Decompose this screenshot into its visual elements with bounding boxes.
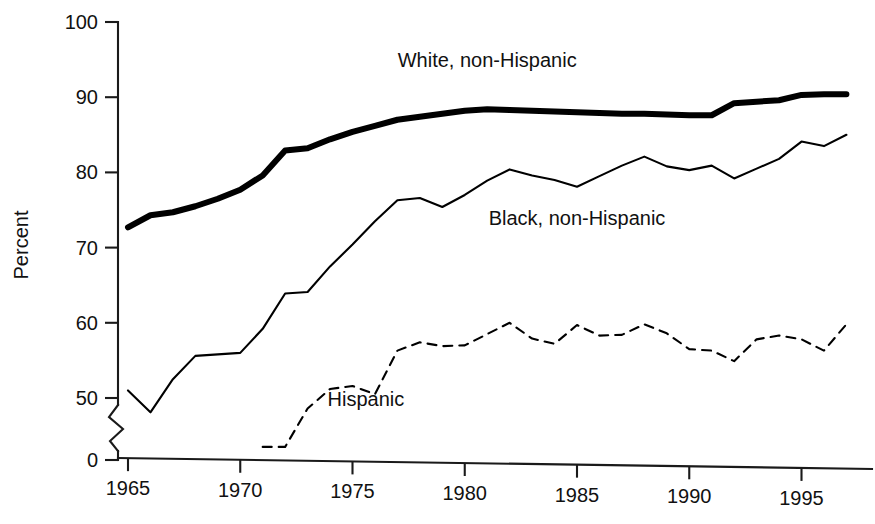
- line-chart-svg: 05060708090100 1965197019751980198519901…: [0, 0, 875, 524]
- x-tick-label-1965: 1965: [106, 477, 151, 499]
- series-line-1: [128, 135, 846, 412]
- y-tick-label-60: 60: [76, 312, 98, 334]
- series-label-1: Black, non-Hispanic: [489, 207, 666, 229]
- series-label-0: White, non-Hispanic: [398, 49, 577, 71]
- x-tick-label-1990: 1990: [667, 485, 712, 507]
- series-lines: [128, 94, 846, 447]
- chart-figure: 05060708090100 1965197019751980198519901…: [0, 0, 875, 524]
- y-axis-break-marker: [109, 405, 123, 451]
- x-tick-label-1995: 1995: [779, 487, 824, 509]
- y-tick-label-50: 50: [76, 387, 98, 409]
- x-axis-line: [118, 458, 872, 469]
- x-tick-label-1975: 1975: [330, 480, 375, 502]
- x-tick-marks: [128, 458, 802, 481]
- series-label-2: Hispanic: [328, 388, 405, 410]
- y-tick-label-90: 90: [76, 86, 98, 108]
- series-line-2: [263, 323, 847, 447]
- y-tick-label-100: 100: [65, 11, 98, 33]
- y-tick-label-80: 80: [76, 161, 98, 183]
- x-tick-label-1985: 1985: [555, 484, 600, 506]
- y-axis-title: Percent: [10, 210, 32, 279]
- series-line-0: [128, 94, 846, 227]
- x-axis-group: 1965197019751980198519901995: [106, 458, 872, 509]
- y-tick-labels: 05060708090100: [65, 11, 98, 471]
- series-inline-labels: White, non-HispanicBlack, non-HispanicHi…: [328, 49, 666, 409]
- y-tick-label-70: 70: [76, 237, 98, 259]
- y-axis-group: 05060708090100: [65, 11, 123, 471]
- x-tick-label-1970: 1970: [218, 479, 263, 501]
- x-tick-label-1980: 1980: [443, 482, 488, 504]
- y-tick-marks: [105, 22, 118, 460]
- y-tick-label-0: 0: [87, 449, 98, 471]
- x-tick-labels: 1965197019751980198519901995: [106, 477, 824, 509]
